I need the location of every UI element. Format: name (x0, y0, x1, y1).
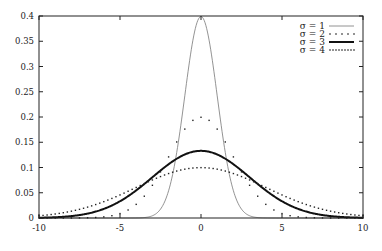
y-tick-label: 0.25 (15, 87, 34, 97)
legend-label: σ = 4 (300, 45, 325, 55)
x-tick-label: 10 (358, 223, 369, 233)
y-tick-label: 0.3 (20, 62, 34, 72)
x-tick-label: -5 (116, 223, 124, 233)
y-tick-label: 0.05 (15, 188, 34, 198)
y-tick-label: 0.2 (20, 112, 34, 122)
gaussian-chart: 00.050.10.150.20.250.30.350.4 -10-50510 … (0, 0, 382, 251)
y-tick-label: 0.1 (20, 163, 34, 173)
y-tick-label: 0.35 (15, 36, 34, 46)
x-tick-label: 5 (279, 223, 284, 233)
y-tick-label: 0 (29, 213, 34, 223)
x-tick-label: 0 (198, 223, 203, 233)
legend-item: σ = 4 (300, 45, 355, 55)
y-tick-label: 0.4 (20, 11, 34, 21)
legend: σ = 1σ = 2σ = 3σ = 4 (300, 21, 355, 55)
x-tick-label: -10 (32, 223, 46, 233)
y-tick-label: 0.15 (15, 137, 34, 147)
curve-sigma-4 (38, 167, 363, 217)
